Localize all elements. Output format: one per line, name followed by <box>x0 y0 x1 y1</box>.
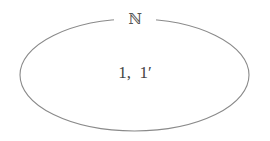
set-elements: 1, 1′ <box>95 63 175 83</box>
set-label-natural-numbers: ℕ <box>115 11 155 27</box>
